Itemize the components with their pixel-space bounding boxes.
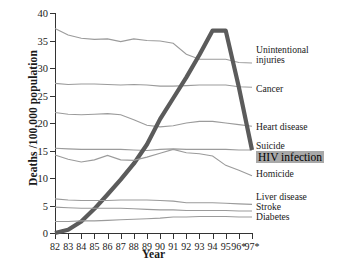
series-label-cancer: Cancer — [256, 84, 283, 94]
x-tick-95 — [226, 233, 227, 239]
series-label-hiv-infection: HIV infection — [256, 151, 324, 163]
x-tick-91 — [173, 233, 174, 239]
x-tick-93 — [199, 233, 200, 239]
series-label-text: Cancer — [256, 84, 283, 94]
x-tick-85 — [94, 233, 95, 239]
y-tick-label-10: 10 — [38, 173, 49, 184]
y-tick-label-20: 20 — [38, 118, 49, 129]
y-tick-label-35: 35 — [38, 35, 49, 46]
x-tick-97* — [252, 233, 253, 239]
series-label-text: Heart disease — [256, 122, 307, 132]
y-tick-label-15: 15 — [38, 145, 49, 156]
series-label-text: injuries — [256, 55, 309, 65]
x-axis-line — [55, 233, 252, 234]
x-tick-87 — [121, 233, 122, 239]
x-tick-90 — [160, 233, 161, 239]
series-label-suicide: Suicide — [256, 141, 285, 151]
series-label-text: Diabetes — [256, 212, 290, 222]
series-line-stroke — [55, 207, 252, 211]
y-tick-label-0: 0 — [43, 228, 48, 239]
series-label-homicide: Homicide — [256, 169, 294, 179]
series-label-text: HIV infection — [258, 151, 322, 163]
y-tick-label-30: 30 — [38, 63, 49, 74]
x-axis-title: Year — [55, 248, 252, 260]
y-tick-label-5: 5 — [43, 200, 48, 211]
y-tick-label-25: 25 — [38, 90, 49, 101]
series-line-liver-disease — [55, 199, 252, 205]
series-line-suicide — [55, 148, 252, 150]
series-label-unintentional: Unintentionalinjuries — [256, 45, 309, 66]
x-tick-94 — [213, 233, 214, 239]
series-label-heart-disease: Heart disease — [256, 122, 307, 132]
series-line-cancer — [55, 83, 252, 87]
x-tick-88 — [134, 233, 135, 239]
series-line-unintentional-injuries — [55, 28, 252, 63]
series-line-homicide — [55, 149, 252, 175]
y-tick-label-40: 40 — [38, 8, 49, 19]
series-label-diabetes: Diabetes — [256, 212, 290, 222]
x-tick-86 — [108, 233, 109, 239]
x-tick-83 — [68, 233, 69, 239]
series-line-heart-disease — [55, 113, 252, 127]
chart-root: Deaths /100,000 population 0510152025303… — [0, 0, 338, 268]
x-tick-84 — [81, 233, 82, 239]
x-tick-96* — [239, 233, 240, 239]
plot-area: 0510152025303540 82838485868788899091929… — [55, 13, 252, 233]
series-label-text: Homicide — [256, 169, 294, 179]
series-lines — [55, 13, 252, 233]
x-tick-89 — [147, 233, 148, 239]
series-label-text: Suicide — [256, 141, 285, 151]
x-tick-92 — [186, 233, 187, 239]
